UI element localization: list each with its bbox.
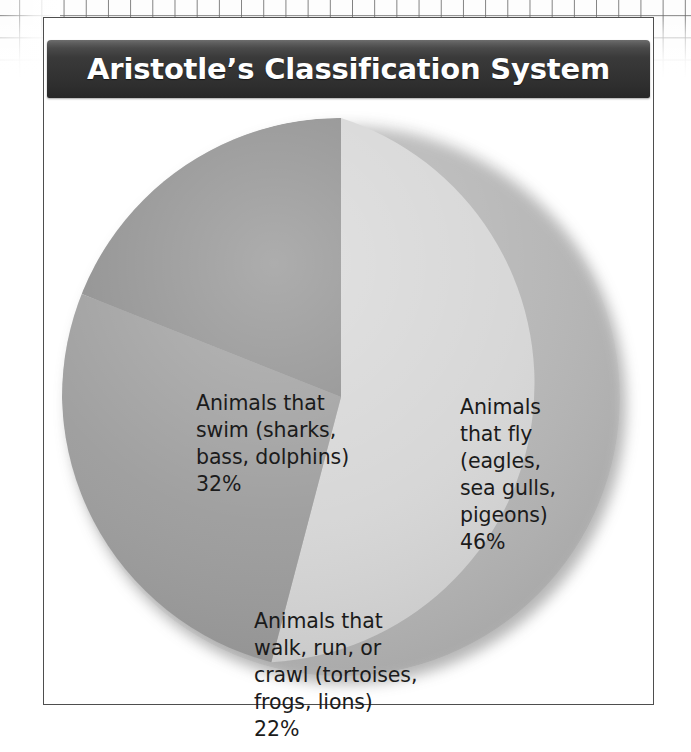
pie-chart: Animals that swim (sharks, bass, dolphin… — [62, 118, 620, 676]
pie-label-walk-run-crawl: Animals that walk, run, or crawl (tortoi… — [254, 608, 466, 743]
page-title: Aristotle’s Classification System — [87, 55, 610, 84]
title-banner: Aristotle’s Classification System — [47, 40, 650, 98]
page-root: Aristotle’s Classification System — [0, 0, 691, 752]
pie-label-swim: Animals that swim (sharks, bass, dolphin… — [196, 390, 428, 498]
pie-label-fly: Animals that fly (eagles, sea gulls, pig… — [460, 394, 610, 556]
